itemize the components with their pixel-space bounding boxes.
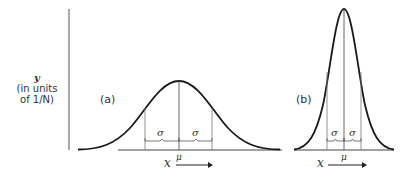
x-arrow-head-b — [362, 162, 367, 168]
panel-a-label: (a) — [100, 94, 115, 105]
y-variable: y — [12, 72, 62, 83]
x-arrow-head-a — [208, 162, 213, 168]
y-units-line1: (in units — [12, 83, 62, 94]
sigma-brace-left-b — [327, 138, 344, 141]
sigma-brace-right-a — [179, 138, 212, 141]
sigma-label-right-a: σ — [192, 127, 199, 138]
sigma-label-left-b: σ — [331, 127, 338, 138]
curve-b-group — [294, 9, 394, 168]
sigma-label-right-b: σ — [349, 127, 356, 138]
x-label-b: x — [317, 158, 324, 169]
sigma-brace-left-a — [145, 138, 179, 141]
panel-b-label: (b) — [296, 94, 312, 105]
y-axis-label: y (in units of 1/N) — [12, 72, 62, 105]
x-label-a: x — [164, 158, 171, 169]
y-units-line2: of 1/N) — [12, 94, 62, 105]
mu-label-b: μ — [341, 152, 347, 163]
mu-label-a: μ — [176, 152, 182, 163]
sigma-brace-right-b — [344, 138, 361, 141]
sigma-label-left-a: σ — [157, 127, 164, 138]
